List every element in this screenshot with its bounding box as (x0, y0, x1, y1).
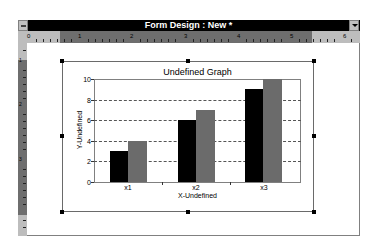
ruler-label: 3 (19, 157, 22, 162)
y-tick-label: 10 (78, 76, 91, 83)
ruler-label: 2 (130, 33, 133, 39)
x-tick-label: x2 (181, 184, 211, 192)
resize-handle-left[interactable] (60, 134, 64, 138)
resize-handle-top[interactable] (186, 59, 190, 63)
ruler-label: 1 (19, 58, 22, 63)
resize-handle-bottom[interactable] (186, 210, 190, 214)
bar-x2-series1 (178, 120, 196, 182)
resize-handle-top-left[interactable] (60, 59, 64, 63)
system-menu-icon[interactable] (18, 20, 28, 31)
bar-x3-series1 (245, 89, 263, 182)
ruler-label: 3 (184, 33, 187, 39)
x-axis-title: X-Undefined (94, 192, 301, 200)
y-tick-label: 0 (78, 179, 91, 186)
ruler-label: 5 (290, 33, 293, 39)
ruler-label: 4 (237, 33, 240, 39)
down-arrow-icon (352, 24, 358, 27)
bar-x3-series2 (263, 79, 282, 182)
bar-x1-series2 (128, 141, 147, 182)
y-axis-title: Y-Undefined (76, 100, 84, 160)
ruler-label: 0 (27, 33, 30, 39)
window-title: Form Design : New * (28, 20, 349, 31)
x-tick-label: x1 (113, 184, 143, 192)
bar-x2-series2 (196, 110, 215, 182)
resize-handle-bottom-left[interactable] (60, 210, 64, 214)
ruler-label: 6 (343, 33, 346, 39)
resize-handle-right[interactable] (312, 134, 316, 138)
resize-handle-bottom-right[interactable] (312, 210, 316, 214)
ruler-label: 2 (19, 102, 22, 107)
chart-title: Undefined Graph (94, 67, 301, 77)
ruler-label: 1 (78, 33, 81, 39)
x-tick-label: x3 (249, 184, 279, 192)
resize-handle-top-right[interactable] (312, 59, 316, 63)
bar-x1-series1 (110, 151, 128, 182)
minimize-button[interactable] (349, 20, 359, 31)
